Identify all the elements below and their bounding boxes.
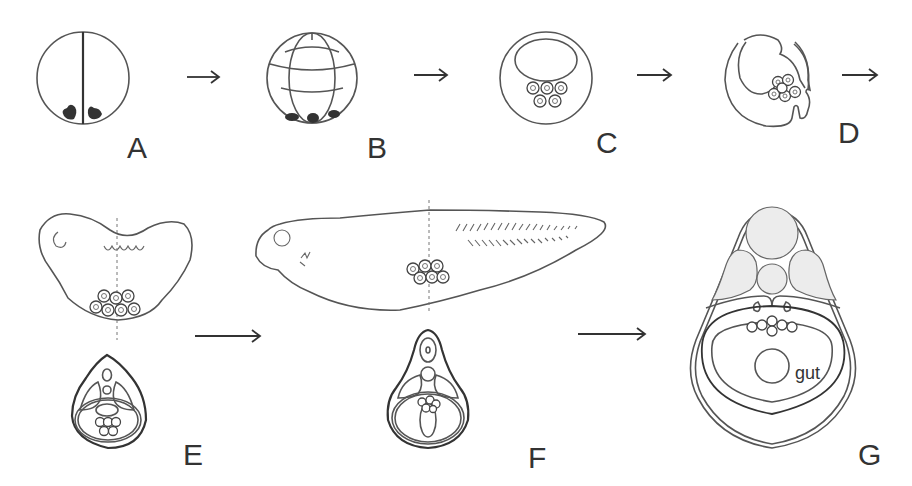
stage-label-f: F (528, 443, 546, 473)
stage-label-a: A (127, 133, 147, 163)
stage-label-c: C (596, 128, 618, 158)
germ-cells-d (769, 75, 801, 102)
stage-label-b: B (367, 133, 387, 163)
diagram-canvas: gut A B C D E F G (0, 0, 912, 486)
germ-cells-f-body (407, 260, 449, 284)
arrow-c-d (637, 69, 671, 81)
section-f (388, 330, 469, 448)
arrow-f-g (578, 328, 645, 340)
arrow-e-f (195, 330, 260, 342)
arrow-d-e (842, 69, 877, 81)
diagram-svg (0, 0, 912, 486)
germ-cells-e-body (90, 290, 140, 316)
stage-c-blastula (500, 32, 592, 124)
stage-b-cleavage (267, 33, 357, 123)
stage-label-g: G (858, 440, 881, 470)
stage-label-d: D (838, 118, 860, 148)
tadpole-tail-myotomes (456, 223, 577, 246)
stage-f-tadpole (256, 200, 606, 448)
stage-e-tailbud (39, 214, 192, 448)
germ-cells-g (747, 316, 797, 336)
arrow-b-c (414, 69, 447, 81)
stage-a-egg (37, 32, 129, 124)
germ-cells-c (527, 82, 567, 107)
arrow-a-b (187, 71, 219, 83)
stage-g-cross-section (690, 207, 855, 448)
section-e (72, 355, 146, 448)
stage-d-gastrula (725, 35, 810, 126)
gut-label: gut (795, 364, 820, 382)
stage-label-e: E (183, 440, 203, 470)
